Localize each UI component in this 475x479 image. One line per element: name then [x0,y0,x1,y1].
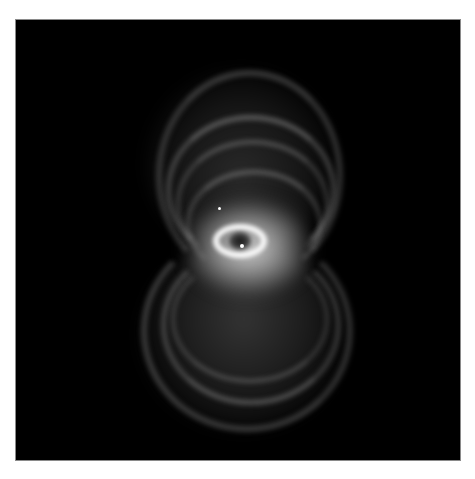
nebula-image [16,20,460,460]
field-star [218,207,221,210]
central-star [240,244,244,248]
